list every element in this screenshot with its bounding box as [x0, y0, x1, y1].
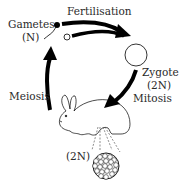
mitosis-arrow — [104, 70, 136, 108]
gametes-ploidy-label: (N) — [22, 31, 39, 43]
magnification-lines — [92, 127, 120, 152]
fertilisation-arrow — [62, 22, 131, 38]
zygote-cell-icon — [125, 44, 147, 66]
rabbit-icon — [59, 95, 130, 135]
mitosis-label: Mitosis — [133, 92, 172, 104]
gametes-label: Gametes — [8, 18, 55, 30]
meiosis-label: Meiosis — [9, 90, 50, 102]
fertilisation-label: Fertilisation — [67, 5, 132, 17]
tissue-cells-icon — [93, 153, 119, 179]
egg-icon — [64, 34, 70, 40]
zygote-label: Zygote — [142, 66, 179, 78]
body-ploidy-label: (2N) — [66, 150, 90, 162]
zygote-ploidy-label: (2N) — [147, 79, 171, 91]
